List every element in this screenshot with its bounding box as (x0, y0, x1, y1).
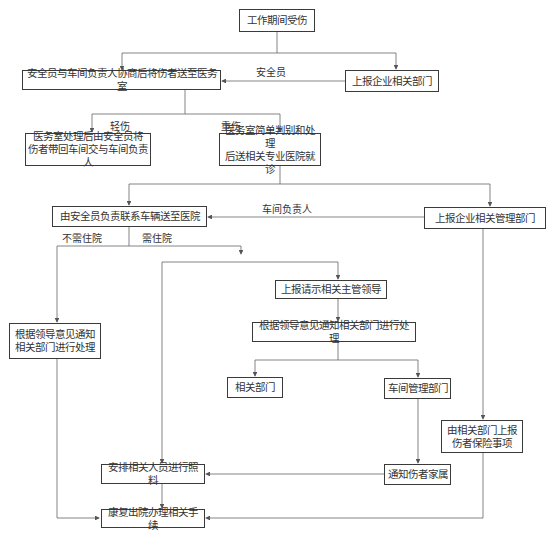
node-severe-handle: 医务室简单判别和处理 后送相关专业医院就诊 (219, 133, 321, 166)
node-light-handle: 医务室处理后由安全员将 伤者带回车间交与车间负责人 (25, 133, 151, 166)
node-notify-left: 根据领导意见通知 相关部门进行处理 (9, 323, 101, 359)
label-no-hospitalization: 不需住院 (62, 230, 102, 245)
node-related-dept: 相关部门 (227, 377, 283, 398)
node-discharge: 康复出院办理相关手续 (101, 509, 205, 528)
node-insurance: 由相关部门上报 伤者保险事项 (441, 420, 523, 453)
label-light-injury: 轻伤 (110, 118, 130, 133)
node-notify-family: 通知伤者家属 (384, 464, 451, 485)
label-severe-injury: 重伤 (221, 118, 241, 133)
node-report-mgmt: 上报企业相关管理部门 (424, 207, 546, 229)
node-send-clinic: 安全员与车间负责人协商后将伤者送至医务室 (22, 70, 221, 90)
node-start: 工作期间受伤 (239, 9, 315, 32)
label-workshop-head: 车间负责人 (262, 201, 312, 216)
label-safety-officer: 安全员 (256, 64, 286, 79)
node-arrange-care: 安排相关人员进行照料 (101, 464, 205, 484)
node-workshop-mgmt: 车间管理部门 (384, 378, 451, 399)
node-report-dept: 上报企业相关部门 (345, 70, 439, 92)
node-report-leader: 上报请示相关主管领导 (275, 280, 387, 299)
node-notify-by-leader: 根据领导意见通知相关部门进行处理 (252, 322, 416, 342)
node-send-hospital: 由安全员负责联系车辆送至医院 (52, 206, 207, 227)
label-hospitalization: 需住院 (142, 230, 172, 245)
